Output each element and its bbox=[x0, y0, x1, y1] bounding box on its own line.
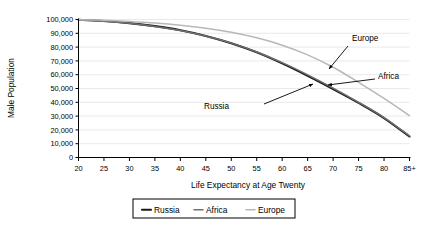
y-tick-label: 90,000 bbox=[50, 29, 73, 38]
x-tick-label: 50 bbox=[227, 164, 235, 173]
y-tick-label: 20,000 bbox=[50, 126, 73, 135]
y-tick-label: 30,000 bbox=[50, 112, 73, 121]
x-tick-label: 45 bbox=[202, 164, 210, 173]
annotation-label-africa: Africa bbox=[378, 72, 399, 81]
x-tick-label: 85+ bbox=[403, 164, 416, 173]
y-tick-label: 10,000 bbox=[50, 139, 73, 148]
line-chart: 010,00020,00030,00040,00050,00060,00070,… bbox=[0, 0, 423, 233]
x-tick-label: 30 bbox=[125, 164, 133, 173]
x-tick-label: 20 bbox=[74, 164, 82, 173]
legend-label-africa[interactable]: Africa bbox=[206, 205, 228, 215]
x-tick-label: 35 bbox=[151, 164, 159, 173]
x-tick-label: 65 bbox=[304, 164, 312, 173]
y-tick-label: 50,000 bbox=[50, 84, 73, 93]
chart-legend: RussiaAfricaEurope bbox=[133, 199, 295, 218]
x-tick-label: 55 bbox=[253, 164, 261, 173]
legend-items: RussiaAfricaEurope bbox=[142, 205, 285, 215]
y-tick-label: 80,000 bbox=[50, 43, 73, 52]
x-tick-label: 80 bbox=[380, 164, 388, 173]
y-axis-title: Male Population bbox=[6, 58, 16, 118]
y-tick-label: 100,000 bbox=[46, 15, 73, 24]
x-tick-label: 25 bbox=[100, 164, 108, 173]
x-tick-label: 40 bbox=[176, 164, 184, 173]
y-tick-label: 0 bbox=[69, 153, 73, 162]
annotation-label-russia: Russia bbox=[204, 102, 229, 111]
x-axis-title: Life Expectancy at Age Twenty bbox=[191, 180, 306, 190]
chart-figure: 010,00020,00030,00040,00050,00060,00070,… bbox=[0, 0, 423, 233]
annotation-label-europe: Europe bbox=[352, 34, 379, 43]
legend-label-russia[interactable]: Russia bbox=[154, 205, 180, 215]
y-tick-label: 60,000 bbox=[50, 70, 73, 79]
x-tick-label: 70 bbox=[329, 164, 337, 173]
legend-label-europe[interactable]: Europe bbox=[258, 205, 285, 215]
x-tick-label: 60 bbox=[278, 164, 286, 173]
y-tick-label: 70,000 bbox=[50, 57, 73, 66]
y-tick-labels: 010,00020,00030,00040,00050,00060,00070,… bbox=[46, 15, 73, 162]
y-tick-label: 40,000 bbox=[50, 98, 73, 107]
x-tick-label: 75 bbox=[354, 164, 362, 173]
